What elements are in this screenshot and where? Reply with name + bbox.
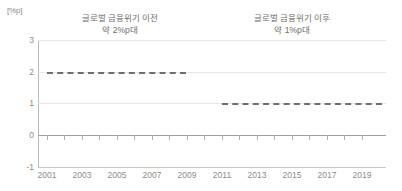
x-tick-2016 xyxy=(309,135,310,140)
x-tick-2003 xyxy=(82,135,83,140)
y-tick-label-0: 0 xyxy=(4,131,34,140)
annotation-post-crisis: 글로벌 금융위기 이후 약 1%p대 xyxy=(254,12,331,37)
annotation-pre-crisis: 글로벌 금융위기 이전 약 2%p대 xyxy=(82,12,159,37)
x-tick-2001 xyxy=(47,135,48,140)
x-tick-2013 xyxy=(257,135,258,140)
series-post-crisis-line xyxy=(222,103,382,105)
x-tick-2007 xyxy=(152,135,153,140)
x-tick-label-2009: 2009 xyxy=(178,171,197,180)
y-axis-tick-labels: 3 2 1 0 -1 xyxy=(0,0,34,191)
y-tick-label-1: 1 xyxy=(4,99,34,108)
x-tick-2010 xyxy=(204,135,205,140)
x-tick-2018 xyxy=(344,135,345,140)
x-tick-label-2001: 2001 xyxy=(38,171,57,180)
y-tick-label-2: 2 xyxy=(4,68,34,77)
x-tick-2002 xyxy=(64,135,65,140)
x-tick-2008 xyxy=(169,135,170,140)
x-tick-2014 xyxy=(274,135,275,140)
x-tick-2006 xyxy=(134,135,135,140)
annotation-post-crisis-line2: 약 1%p대 xyxy=(254,24,331,36)
x-tick-2011 xyxy=(222,135,223,140)
gridline-3 xyxy=(38,40,386,41)
y-tick-label-3: 3 xyxy=(4,36,34,45)
x-tick-label-2003: 2003 xyxy=(73,171,92,180)
x-tick-label-2017: 2017 xyxy=(318,171,337,180)
x-tick-2012 xyxy=(239,135,240,140)
x-tick-2005 xyxy=(117,135,118,140)
x-axis-baseline xyxy=(38,167,386,168)
annotation-post-crisis-line1: 글로벌 금융위기 이후 xyxy=(254,12,331,24)
x-tick-label-2011: 2011 xyxy=(213,171,231,180)
annotation-pre-crisis-line2: 약 2%p대 xyxy=(82,24,159,36)
x-tick-label-2015: 2015 xyxy=(283,171,302,180)
annotation-pre-crisis-line1: 글로벌 금융위기 이전 xyxy=(82,12,159,24)
x-tick-label-2007: 2007 xyxy=(143,171,162,180)
gridline-zero xyxy=(38,135,386,136)
x-tick-2015 xyxy=(292,135,293,140)
x-tick-label-2019: 2019 xyxy=(353,171,372,180)
chart-container: [%p] 3 2 1 0 -1 xyxy=(0,0,402,191)
x-tick-2017 xyxy=(327,135,328,140)
x-tick-label-2013: 2013 xyxy=(248,171,267,180)
x-tick-2019 xyxy=(362,135,363,140)
y-tick-label-neg1: -1 xyxy=(4,163,34,172)
x-tick-label-2005: 2005 xyxy=(108,171,127,180)
x-tick-2009 xyxy=(187,135,188,140)
x-tick-2004 xyxy=(99,135,100,140)
series-pre-crisis-line xyxy=(47,72,186,74)
